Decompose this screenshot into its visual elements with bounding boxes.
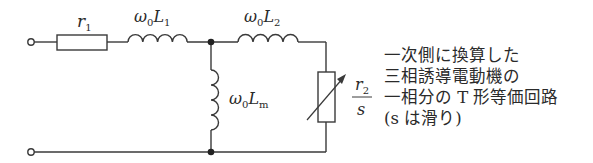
inductor-L2 xyxy=(238,35,298,42)
label-L1: ω0L1 xyxy=(134,7,170,28)
svg-text:s: s xyxy=(357,100,365,119)
junction-node-top xyxy=(208,39,215,46)
caption-line: 一次側に換算した xyxy=(384,45,559,66)
caption-line: (s は滑り) xyxy=(384,108,559,129)
input-terminal-bottom xyxy=(28,149,34,155)
input-terminal-top xyxy=(28,39,34,45)
svg-text:r2: r2 xyxy=(355,75,369,96)
caption-line: 一相分の T 形等価回路 xyxy=(384,87,559,108)
inductor-Lm xyxy=(211,70,219,130)
inductor-L1 xyxy=(128,35,187,42)
label-Lm: ω0Lm xyxy=(229,89,269,110)
label-r1: r1 xyxy=(77,11,92,33)
label-L2: ω0L2 xyxy=(244,7,280,28)
label-r2-over-s: r2 s xyxy=(352,75,372,119)
caption-line: 三相誘導電動機の xyxy=(384,66,559,87)
junction-node-bottom xyxy=(208,149,215,156)
circuit-caption: 一次側に換算した 三相誘導電動機の 一相分の T 形等価回路 (s は滑り) xyxy=(384,45,559,129)
resistor-r1 xyxy=(57,35,107,50)
